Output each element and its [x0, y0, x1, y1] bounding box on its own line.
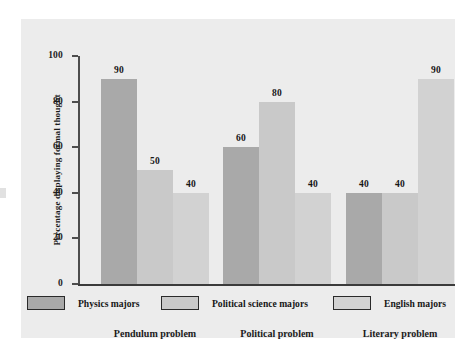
category-label-1: Pendulum problem [101, 328, 209, 339]
category-label-2: Political problem [223, 328, 331, 339]
y-axis-title-text: Percentage displaying formal thought [52, 94, 62, 245]
legend-item-1[interactable]: Physics majors [27, 296, 140, 310]
bar[interactable]: 50 [137, 170, 173, 284]
y-tick-label-100: 100 [48, 50, 63, 60]
bar-value-label: 60 [223, 133, 259, 143]
y-axis-title: Percentage displaying formal thought [50, 56, 64, 284]
y-tick-100: 100 [72, 55, 78, 57]
plot-area: 020406080100 905040608040404090 Pendulum… [78, 56, 455, 284]
y-tick-label-80: 80 [53, 96, 63, 106]
legend-item-2[interactable]: Political science majors [161, 296, 308, 310]
bar-group-3: 404090 [346, 56, 454, 284]
legend-swatch [161, 296, 199, 310]
legend-label: Political science majors [212, 298, 308, 309]
bar[interactable]: 40 [382, 193, 418, 284]
legend-item-3[interactable]: English majors [333, 296, 446, 310]
bar[interactable]: 40 [295, 193, 331, 284]
bar-value-label: 50 [137, 156, 173, 166]
legend-label: Physics majors [78, 298, 140, 309]
bar-value-label: 40 [295, 179, 331, 189]
bar-value-label: 40 [173, 179, 209, 189]
bar-value-label: 40 [382, 179, 418, 189]
bar[interactable]: 90 [101, 79, 137, 284]
bar-group-2: 608040 [223, 56, 331, 284]
y-tick-label-60: 60 [53, 141, 63, 151]
legend-swatch [27, 296, 65, 310]
legend-label: English majors [384, 298, 446, 309]
bar[interactable]: 90 [418, 79, 454, 284]
bar[interactable]: 80 [259, 102, 295, 284]
x-axis-line [78, 284, 455, 286]
y-axis-line [78, 56, 80, 284]
legend-swatch [333, 296, 371, 310]
chart-legend: Physics majorsPolitical science majorsEn… [21, 296, 455, 320]
bar[interactable]: 40 [346, 193, 382, 284]
page-edge-artifact [0, 188, 6, 198]
bar-value-label: 40 [346, 179, 382, 189]
bar-value-label: 90 [101, 65, 137, 75]
y-tick-label-20: 20 [53, 232, 63, 242]
y-tick-0: 0 [72, 283, 78, 285]
figure-page: Percentage displaying formal thought 020… [0, 0, 474, 348]
y-tick-20: 20 [72, 237, 78, 239]
y-tick-80: 80 [72, 101, 78, 103]
y-tick-40: 40 [72, 192, 78, 194]
bar-group-1: 905040 [101, 56, 209, 284]
bar-value-label: 90 [418, 65, 454, 75]
chart-figure-panel: Percentage displaying formal thought 020… [21, 19, 455, 338]
bar[interactable]: 40 [173, 193, 209, 284]
bar[interactable]: 60 [223, 147, 259, 284]
y-tick-label-0: 0 [58, 278, 63, 288]
category-label-3: Literary problem [346, 328, 454, 339]
y-tick-label-40: 40 [53, 187, 63, 197]
y-tick-60: 60 [72, 146, 78, 148]
bar-value-label: 80 [259, 88, 295, 98]
